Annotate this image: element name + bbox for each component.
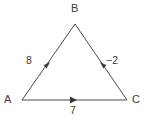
vector-triangle-diagram: A B C 8 −2 7: [0, 0, 146, 121]
vertex-label-c: C: [132, 94, 140, 105]
edge-label-ac: 7: [70, 105, 76, 116]
arrowhead-ac-icon: [70, 97, 77, 104]
vertex-label-a: A: [4, 94, 11, 105]
line-segment-bc: [75, 24, 127, 100]
triangle-graphic: [0, 0, 146, 121]
edge-label-cb: −2: [106, 55, 118, 66]
edge-label-ab: 8: [26, 55, 32, 66]
vertex-label-b: B: [71, 3, 78, 14]
